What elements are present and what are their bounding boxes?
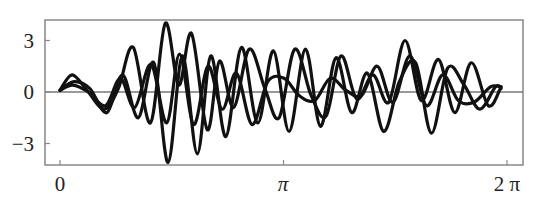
y-tick-label-3: 3 xyxy=(4,31,34,52)
x-tick-label-pi: π xyxy=(253,174,313,195)
y-tick-label-0: 0 xyxy=(4,82,34,103)
x-tick-label-pi-text: π xyxy=(278,172,289,196)
data-series xyxy=(60,23,501,163)
y-tick-label-neg3: −3 xyxy=(4,134,34,155)
x-tick-label-2pi: 2 π xyxy=(477,174,537,195)
x-tick-label-0: 0 xyxy=(30,174,90,195)
line-chart xyxy=(0,0,543,201)
